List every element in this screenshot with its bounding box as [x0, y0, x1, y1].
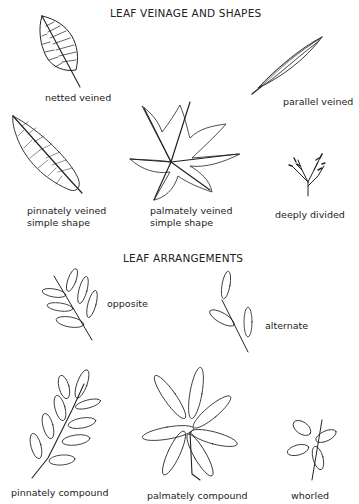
section-title-arrangements: LEAF ARRANGEMENTS	[123, 252, 243, 264]
label-line-2: simple shape	[150, 217, 232, 229]
label-pinnately-compound: pinnately compound	[11, 487, 109, 499]
label-netted-veined: netted veined	[45, 92, 111, 104]
deeply-divided-leaf-icon	[289, 154, 325, 196]
label-opposite: opposite	[107, 298, 148, 310]
parallel-veined-leaf-icon	[252, 37, 322, 94]
netted-veined-leaf-icon	[40, 16, 80, 87]
pinnately-compound-icon	[28, 368, 102, 478]
label-line-1: pinnately veined	[27, 205, 106, 217]
label-pinnately-veined: pinnately veined simple shape	[27, 205, 106, 229]
label-palmately-veined: palmately veined simple shape	[150, 205, 232, 229]
label-parallel-veined: parallel veined	[283, 96, 353, 108]
label-line-2: simple shape	[27, 217, 106, 229]
palmately-veined-leaf-icon	[130, 102, 240, 200]
palmately-compound-icon	[141, 366, 238, 480]
opposite-arrangement-icon	[41, 267, 99, 340]
whorled-arrangement-icon	[286, 417, 338, 480]
label-line-1: palmately veined	[150, 205, 232, 217]
label-palmately-compound: palmately compound	[147, 490, 248, 502]
label-alternate: alternate	[265, 320, 308, 332]
pinnately-veined-leaf-icon	[13, 116, 82, 193]
label-whorled: whorled	[291, 490, 329, 502]
section-title-veinage: LEAF VEINAGE AND SHAPES	[110, 7, 261, 19]
label-deeply-divided: deeply divided	[275, 209, 345, 221]
alternate-arrangement-icon	[207, 271, 252, 352]
